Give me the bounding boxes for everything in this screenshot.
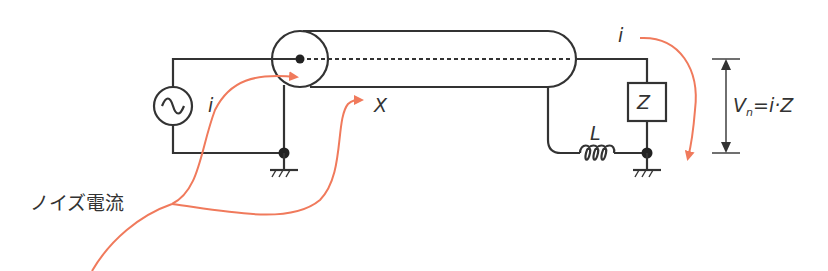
- noise-trunk: [92, 204, 172, 271]
- load-current-label: i: [618, 24, 624, 46]
- ground-icon-right: [633, 170, 661, 177]
- position-x-label: X: [373, 94, 388, 116]
- source-current-label: i: [208, 94, 214, 116]
- inductor-label: L: [590, 122, 601, 144]
- arrow-down-icon: [721, 142, 731, 153]
- noise-current-label: ノイズ電流: [30, 192, 124, 214]
- noise-voltage-label: Vn=i·Z: [733, 94, 794, 119]
- arrow-up-icon: [721, 59, 731, 70]
- sine-wave-icon: [162, 99, 184, 114]
- impedance-label: Z: [636, 91, 651, 113]
- ground-icon-left: [270, 170, 298, 177]
- coaxial-cable: [272, 31, 576, 87]
- load-circuit: [548, 59, 666, 177]
- inner-conductor-dot: [296, 55, 305, 64]
- noise-branch-to-inner: [172, 76, 296, 204]
- circuit-diagram: i X i Z L Vn=i·Z ノイズ電流: [0, 0, 828, 271]
- inductor-icon: [580, 146, 614, 160]
